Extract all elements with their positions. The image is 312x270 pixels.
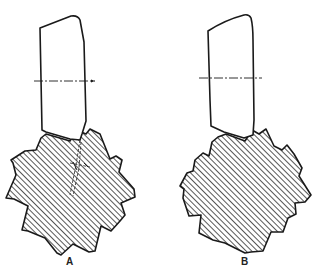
arrow-head-a	[91, 80, 95, 83]
panel-label-a: A	[66, 257, 73, 267]
workpiece-b	[180, 129, 311, 253]
panel-label-b: B	[241, 257, 248, 267]
tool-b	[208, 15, 254, 138]
tool-a	[40, 16, 86, 140]
workpiece-a	[6, 129, 135, 255]
panel-b	[180, 15, 311, 253]
figure-canvas	[0, 0, 312, 270]
panel-a	[6, 16, 135, 255]
